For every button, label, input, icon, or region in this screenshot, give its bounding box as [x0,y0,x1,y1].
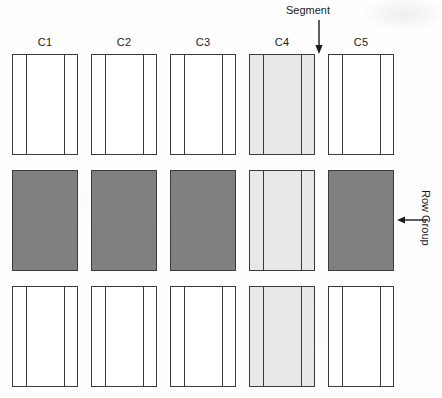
block-c4-row-group-1 [249,54,315,155]
segment-c5-row-group-3-3 [380,287,393,386]
block-c4-row-group-3 [249,286,315,387]
segment-c4-row-group-3-2 [263,287,301,386]
segment-c4-row-group-1-3 [301,55,314,154]
block-c3-row-group-3 [170,286,236,387]
block-c1-row-group-3 [12,286,78,387]
segment-c1-row-group-1-2 [26,55,64,154]
segment-c2-row-group-3-1 [92,287,105,386]
segment-c5-row-group-1-2 [342,55,380,154]
segment-c4-row-group-1-2 [263,55,301,154]
column-header-c5: C5 [328,36,394,48]
segment-annotation-label: Segment [286,4,330,16]
segment-c3-row-group-1-3 [222,55,235,154]
block-c1-row-group-2 [12,170,78,271]
column-header-c2: C2 [91,36,157,48]
segment-c5-row-group-3-1 [329,287,342,386]
block-c3-row-group-1 [170,54,236,155]
segment-c3-row-group-3-1 [171,287,184,386]
segment-c5-row-group-3-2 [342,287,380,386]
segment-c1-row-group-1-1 [13,55,26,154]
segment-c1-row-group-3-1 [13,287,26,386]
segment-c1-row-group-1-3 [64,55,77,154]
segment-c3-row-group-3-2 [184,287,222,386]
segment-c2-row-group-3-2 [105,287,143,386]
block-c4-row-group-2 [249,170,315,271]
column-header-c1: C1 [12,36,78,48]
segment-c4-row-group-2-2 [263,171,301,270]
block-c3-row-group-2 [170,170,236,271]
block-c5-row-group-2 [328,170,394,271]
row-group-arrow-left-icon [396,214,428,226]
block-c2-row-group-3 [91,286,157,387]
block-c2-row-group-1 [91,54,157,155]
segment-c2-row-group-1-1 [92,55,105,154]
segment-c4-row-group-2-3 [301,171,314,270]
segment-c3-row-group-1-1 [171,55,184,154]
segment-c3-row-group-3-3 [222,287,235,386]
segment-c4-row-group-3-3 [301,287,314,386]
block-c5-row-group-1 [328,54,394,155]
column-header-c3: C3 [170,36,236,48]
segment-c2-row-group-1-2 [105,55,143,154]
block-c1-row-group-1 [12,54,78,155]
segment-c4-row-group-3-1 [250,287,263,386]
figure-canvas: C1C2C3C4C5 Segment Row Group [0,0,442,398]
segment-c5-row-group-1-3 [380,55,393,154]
segment-arrow-down-icon [312,20,326,56]
segment-c4-row-group-2-1 [250,171,263,270]
block-c5-row-group-3 [328,286,394,387]
segment-c5-row-group-1-1 [329,55,342,154]
segment-c1-row-group-3-3 [64,287,77,386]
segment-c3-row-group-1-2 [184,55,222,154]
block-c2-row-group-2 [91,170,157,271]
segment-c1-row-group-3-2 [26,287,64,386]
column-header-c4: C4 [249,36,315,48]
segment-c2-row-group-3-3 [143,287,156,386]
segment-c4-row-group-1-1 [250,55,263,154]
segment-c2-row-group-1-3 [143,55,156,154]
